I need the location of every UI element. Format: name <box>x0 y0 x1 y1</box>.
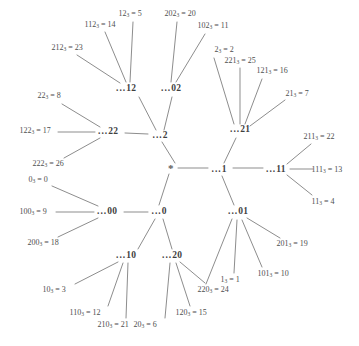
edge-node-20-to-leaf-120 <box>176 263 190 306</box>
diagram-canvas: *...2...22...12...02...1...21...11...01.… <box>0 0 359 346</box>
edge-node-02-to-leaf-202 <box>171 22 177 82</box>
leaf-212: 2123 = 23 <box>52 44 83 53</box>
edge-node-2-to-node-12 <box>139 97 156 130</box>
edge-node-20-to-leaf-220 <box>180 262 205 283</box>
node-22-ellipsis: ... <box>98 126 108 136</box>
leaf-100-equals: = <box>34 207 43 216</box>
leaf-110: 1103 = 12 <box>70 309 101 318</box>
edge-root-to-node-0 <box>159 174 169 205</box>
edge-node-10-to-leaf-210 <box>126 263 128 318</box>
node-02-digits: 02 <box>171 83 181 93</box>
node-00-ellipsis: ... <box>97 206 107 216</box>
leaf-212-decimal: 23 <box>75 43 83 52</box>
leaf-22-decimal: 8 <box>57 91 61 100</box>
leaf-22-equals: = <box>48 91 57 100</box>
edge-node-01-to-leaf-201 <box>247 218 280 238</box>
node-20-ellipsis: ... <box>162 250 172 260</box>
edge-node-01-to-leaf-1 <box>234 220 237 273</box>
node-12-digits: 12 <box>126 83 136 93</box>
leaf-21: 213 = 7 <box>286 90 309 99</box>
leaf-210: 2103 = 21 <box>98 321 129 330</box>
node-01-digits: 01 <box>238 206 248 216</box>
node-2: ...2 <box>153 131 168 141</box>
leaf-220-base3: 220 <box>198 285 210 294</box>
node-12: ...12 <box>116 84 136 94</box>
edge-node-01-to-leaf-101 <box>242 220 262 267</box>
node-11-digits: 11 <box>276 164 286 174</box>
edge-node-21-to-leaf-2 <box>214 58 234 124</box>
leaf-100: 1003 = 9 <box>20 208 47 217</box>
edge-node-1-to-node-01 <box>222 176 234 205</box>
leaf-222-decimal: 26 <box>56 159 64 168</box>
leaf-1-equals: = <box>227 275 236 284</box>
leaf-1-decimal: 1 <box>236 275 240 284</box>
node-0-digits: 0 <box>162 206 167 216</box>
edge-node-2-to-node-02 <box>164 97 172 130</box>
leaf-121-equals: = <box>271 66 280 75</box>
leaf-2-equals: = <box>221 45 230 54</box>
edge-node-00-to-leaf-200 <box>58 218 98 237</box>
leaf-101-decimal: 10 <box>281 269 289 278</box>
leaf-211-base3: 211 <box>304 132 316 141</box>
edge-node-11-to-leaf-11 <box>287 175 312 195</box>
leaf-221-decimal: 25 <box>248 56 256 65</box>
edge-node-22-to-leaf-222 <box>64 138 100 158</box>
leaf-20-decimal: 6 <box>153 320 157 329</box>
leaf-120: 1203 = 15 <box>176 309 207 318</box>
leaf-112-base3: 112 <box>85 20 97 29</box>
leaf-201-base3: 201 <box>277 239 289 248</box>
leaf-0: 03 = 0 <box>29 176 48 185</box>
node-11-ellipsis: ... <box>266 164 276 174</box>
edge-node-12-to-leaf-112 <box>105 32 126 82</box>
leaf-112-equals: = <box>99 20 108 29</box>
node-21-ellipsis: ... <box>230 124 240 134</box>
leaf-110-base3: 110 <box>70 308 82 317</box>
leaf-111: 1113 = 13 <box>312 166 343 175</box>
leaf-221-base3: 221 <box>225 56 237 65</box>
leaf-122-base3: 122 <box>20 126 32 135</box>
leaf-120-decimal: 15 <box>199 308 207 317</box>
leaf-212-base3: 212 <box>52 43 64 52</box>
leaf-11: 113 = 4 <box>312 198 335 207</box>
node-21-digits: 21 <box>240 124 250 134</box>
leaf-12-decimal: 5 <box>138 9 142 18</box>
node-11: ...11 <box>266 165 286 175</box>
node-22-digits: 22 <box>108 126 118 136</box>
leaf-201: 2013 = 19 <box>277 240 308 249</box>
leaf-21-decimal: 7 <box>305 89 309 98</box>
leaf-200-equals: = <box>42 238 51 247</box>
leaf-10-decimal: 3 <box>62 285 66 294</box>
node-1-ellipsis: ... <box>212 164 222 174</box>
leaf-211: 2113 = 22 <box>304 133 335 142</box>
node-02: ...02 <box>161 84 181 94</box>
edge-node-21-to-leaf-121 <box>245 79 262 124</box>
leaf-10-equals: = <box>53 285 62 294</box>
edge-node-1-to-node-21 <box>224 138 236 163</box>
edge-node-20-to-leaf-20 <box>165 263 170 318</box>
leaf-221-equals: = <box>239 56 248 65</box>
node-2-digits: 2 <box>163 130 168 140</box>
node-1-digits: 1 <box>222 164 227 174</box>
leaf-110-equals: = <box>84 308 93 317</box>
leaf-11-equals: = <box>322 197 331 206</box>
leaf-0-equals: = <box>35 175 44 184</box>
leaf-122-equals: = <box>34 126 43 135</box>
leaf-202-decimal: 20 <box>188 9 196 18</box>
leaf-222-base3: 222 <box>33 159 45 168</box>
leaf-12-base3: 12 <box>119 9 127 18</box>
leaf-20: 203 = 6 <box>134 321 157 330</box>
leaf-20-equals: = <box>144 320 153 329</box>
leaf-222-equals: = <box>47 159 56 168</box>
leaf-20-base3: 20 <box>134 320 142 329</box>
leaf-2: 23 = 2 <box>215 46 234 55</box>
node-20-digits: 20 <box>172 250 182 260</box>
node-02-ellipsis: ... <box>161 83 171 93</box>
edge-node-2-to-node-22 <box>125 133 148 134</box>
leaf-220-equals: = <box>212 285 221 294</box>
node-01: ...01 <box>228 207 248 217</box>
leaf-202-equals: = <box>179 9 188 18</box>
leaf-2-decimal: 2 <box>230 45 234 54</box>
node-20: ...20 <box>162 251 182 261</box>
leaf-111-decimal: 13 <box>334 165 342 174</box>
leaf-121-base3: 121 <box>257 66 269 75</box>
